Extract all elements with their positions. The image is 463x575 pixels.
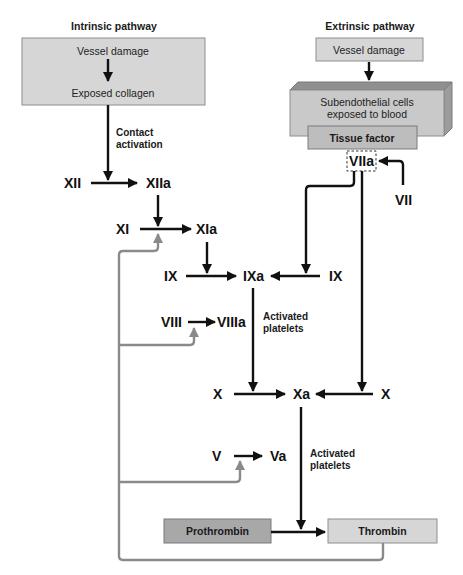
factor-v: V [212, 448, 222, 464]
extrinsic-vessel-damage-text: Vessel damage [333, 44, 405, 56]
thrombin-text: Thrombin [358, 525, 406, 537]
tissue-factor-text: Tissue factor [329, 132, 394, 144]
factor-xia: XIa [196, 221, 217, 237]
factor-viiia: VIIIa [217, 314, 246, 330]
vii-to-viia-arrow [379, 161, 403, 185]
factor-xa: Xa [293, 386, 310, 402]
tissue-factor-box: Tissue factor [308, 126, 417, 149]
viia-activates-ix-arrow [306, 171, 354, 273]
factor-xiia: XIIa [146, 175, 171, 191]
factor-xii: XII [64, 175, 81, 191]
factor-vii: VII [395, 192, 412, 208]
contact-activation-label-line1: Contact [116, 127, 154, 138]
thrombin-box: Thrombin [328, 519, 437, 543]
factor-va: Va [270, 448, 287, 464]
prothrombin-box: Prothrombin [164, 519, 271, 543]
factor-ix-right: IX [329, 268, 343, 284]
factor-x-right: X [381, 386, 391, 402]
contact-activation-label-line2: activation [116, 139, 163, 150]
exposed-collagen-text: Exposed collagen [72, 87, 155, 99]
factor-viia-box: VIIa [347, 151, 376, 171]
extrinsic-pathway-title: Extrinsic pathway [325, 20, 414, 32]
subendothelial-text-line1: Subendothelial cells [320, 96, 413, 108]
thrombin-feedback-to-v-arrow [119, 461, 240, 482]
factor-ixa: IXa [243, 268, 264, 284]
subendothelial-text-line2: exposed to blood [327, 108, 407, 120]
prothrombin-text: Prothrombin [186, 525, 249, 537]
factor-ix-left: IX [164, 268, 178, 284]
coagulation-cascade-diagram: Intrinsic pathway Vessel damage Exposed … [0, 0, 463, 575]
factor-viii: VIII [161, 314, 182, 330]
activated-platelets-2-line2: platelets [310, 460, 351, 471]
activated-platelets-1-line2: platelets [263, 323, 304, 334]
factor-x-left: X [213, 386, 223, 402]
thrombin-feedback-to-viii-arrow [119, 328, 194, 345]
intrinsic-pathway-title: Intrinsic pathway [71, 20, 157, 32]
factor-viia: VIIa [349, 153, 374, 169]
factor-xi: XI [116, 221, 129, 237]
intrinsic-vessel-box: Vessel damage Exposed collagen [22, 38, 205, 105]
intrinsic-vessel-damage-text: Vessel damage [77, 45, 149, 57]
activated-platelets-2-line1: Activated [310, 448, 355, 459]
extrinsic-vessel-damage-box: Vessel damage [316, 38, 423, 61]
activated-platelets-1-line1: Activated [263, 311, 308, 322]
